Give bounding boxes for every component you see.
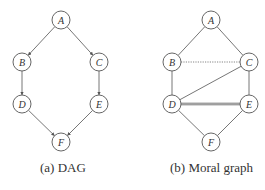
edge-A-B [28,27,55,56]
node-label: A [57,15,65,26]
edge-E-F [67,110,92,135]
edge-A-C [67,27,93,56]
node-E: E [90,95,108,113]
node-E: E [240,95,258,113]
node-label: B [169,57,175,68]
node-label: C [96,57,103,68]
edge-D-F [178,110,204,135]
edge-C-D [180,66,241,99]
node-label: C [246,57,253,68]
node-D: D [163,95,181,113]
node-label: A [207,15,215,26]
node-label: E [95,99,102,110]
node-label: F [207,137,215,148]
caption-dag: (a) DAG [40,160,86,176]
edge-D-F [28,110,54,135]
node-F: F [52,133,70,151]
node-B: B [163,53,181,71]
caption-moral-graph: (b) Moral graph [170,160,253,176]
edge-E-F [217,110,242,135]
node-A: A [202,11,220,29]
node-label: D [167,99,176,110]
node-label: E [245,99,252,110]
node-label: B [19,57,25,68]
edge-A-C [217,27,243,56]
node-D: D [13,95,31,113]
edge-A-B [178,27,205,56]
node-label: D [17,99,26,110]
dag-panel: ABCDEF [13,11,108,151]
node-B: B [13,53,31,71]
moral-graph-panel: ABCDEF [163,11,258,151]
node-label: F [57,137,65,148]
node-C: C [90,53,108,71]
node-A: A [52,11,70,29]
node-C: C [240,53,258,71]
node-F: F [202,133,220,151]
